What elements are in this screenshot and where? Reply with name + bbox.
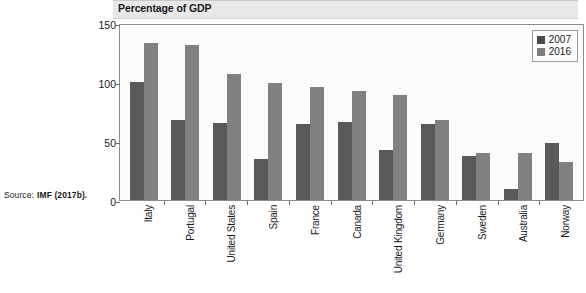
- source-note: Source:IMF (2017b).: [4, 190, 87, 200]
- legend-item-2016[interactable]: 2016: [537, 46, 571, 58]
- bar-2007-italy[interactable]: [130, 82, 144, 200]
- x-label-slot: Spain: [247, 203, 289, 291]
- x-axis-label-australia: Australia: [518, 205, 529, 242]
- source-value: IMF (2017b).: [37, 190, 87, 200]
- legend-swatch-2016: [537, 48, 545, 56]
- bar-2007-united-kingdom[interactable]: [379, 150, 393, 200]
- x-label-slot: Portugal: [164, 203, 206, 291]
- bar-group: [165, 25, 207, 200]
- x-axis-label-united-states: United States: [226, 205, 237, 262]
- x-axis-label-italy: Italy: [143, 205, 154, 222]
- bar-group: [206, 25, 248, 200]
- x-label-slot: Sweden: [456, 203, 498, 291]
- x-label-slot: France: [289, 203, 331, 291]
- x-label-slot: Australia: [498, 203, 540, 291]
- bar-2016-canada[interactable]: [352, 91, 366, 200]
- legend-label-2007: 2007: [549, 34, 571, 46]
- y-tick-label-100: 100: [98, 78, 116, 90]
- bar-2016-italy[interactable]: [144, 43, 158, 200]
- x-axis-label-norway: Norway: [560, 205, 571, 238]
- bar-2007-germany[interactable]: [421, 124, 435, 200]
- x-label-slot: Norway: [539, 203, 581, 291]
- y-tick-label-150: 150: [98, 19, 116, 31]
- x-axis-label-portugal: Portugal: [185, 205, 196, 241]
- bar-2007-france[interactable]: [296, 124, 310, 200]
- x-axis-label-germany: Germany: [435, 205, 446, 245]
- legend-item-2007[interactable]: 2007: [537, 34, 571, 46]
- x-axis-label-france: France: [310, 205, 321, 235]
- x-label-slot: United Kingdom: [372, 203, 414, 291]
- legend-label-2016: 2016: [549, 46, 571, 58]
- x-label-slot: United States: [205, 203, 247, 291]
- bar-2007-spain[interactable]: [254, 159, 268, 200]
- bar-2016-spain[interactable]: [268, 83, 282, 200]
- bar-2007-united-states[interactable]: [213, 123, 227, 200]
- bar-group: [414, 25, 456, 200]
- y-tick-label-50: 50: [104, 137, 116, 149]
- x-label-slot: Canada: [331, 203, 373, 291]
- x-axis-labels: ItalyPortugalUnited StatesSpainFranceCan…: [119, 203, 584, 291]
- gdp-bar-chart: Percentage of GDP 050100150 20072016 Ita…: [113, 0, 586, 293]
- bar-group: [123, 25, 165, 200]
- source-label: Source:: [4, 190, 34, 200]
- bar-2007-australia[interactable]: [504, 189, 518, 200]
- bar-2007-portugal[interactable]: [171, 120, 185, 200]
- bar-2016-france[interactable]: [310, 87, 324, 200]
- x-label-slot: Germany: [414, 203, 456, 291]
- bar-group: [331, 25, 373, 200]
- bar-group: [455, 25, 497, 200]
- chart-legend: 20072016: [532, 30, 578, 62]
- bar-2016-united-states[interactable]: [227, 74, 241, 200]
- bar-group: [289, 25, 331, 200]
- x-axis-label-canada: Canada: [352, 205, 363, 239]
- x-axis-label-spain: Spain: [268, 205, 279, 230]
- x-axis-label-sweden: Sweden: [477, 205, 488, 240]
- bar-2016-sweden[interactable]: [476, 153, 490, 200]
- bar-2007-norway[interactable]: [545, 143, 559, 200]
- bar-group: [248, 25, 290, 200]
- x-label-slot: Italy: [122, 203, 164, 291]
- x-axis-label-united-kingdom: United Kingdom: [393, 205, 404, 273]
- bar-2007-canada[interactable]: [338, 122, 352, 200]
- bar-2007-sweden[interactable]: [462, 156, 476, 200]
- bar-2016-germany[interactable]: [435, 120, 449, 200]
- bar-2016-australia[interactable]: [518, 153, 532, 200]
- bar-group: [372, 25, 414, 200]
- legend-swatch-2007: [537, 36, 545, 44]
- bars-layer: [120, 25, 583, 200]
- plot-area: 050100150 20072016: [119, 24, 584, 201]
- bar-2016-norway[interactable]: [559, 162, 573, 200]
- bar-2016-portugal[interactable]: [185, 45, 199, 200]
- bar-2016-united-kingdom[interactable]: [393, 95, 407, 200]
- chart-title: Percentage of GDP: [118, 2, 211, 14]
